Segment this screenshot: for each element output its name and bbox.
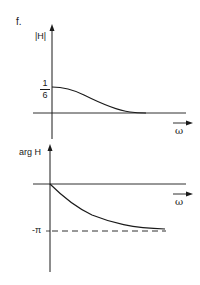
phase-curve — [50, 184, 165, 229]
phase-omega-arrowhead-icon — [186, 192, 193, 197]
phase-plot — [33, 144, 193, 272]
phase-y-tick: -π — [32, 226, 41, 235]
magnitude-y-tick-numerator: 1 — [40, 79, 50, 90]
magnitude-x-label: ω — [175, 126, 183, 136]
magnitude-plot — [33, 24, 193, 139]
phase-y-arrow-icon — [48, 144, 53, 151]
magnitude-y-arrow-icon — [50, 24, 55, 31]
figure-label: f. — [16, 17, 22, 27]
magnitude-y-tick-denominator: 6 — [40, 90, 50, 100]
magnitude-curve — [52, 87, 146, 113]
phase-y-label: arg H — [19, 148, 41, 157]
phase-x-label: ω — [175, 197, 183, 207]
diagram-canvas — [0, 0, 200, 285]
magnitude-omega-arrowhead-icon — [186, 121, 193, 126]
magnitude-y-label: |H| — [35, 32, 46, 41]
magnitude-y-tick: 1 6 — [40, 79, 50, 100]
